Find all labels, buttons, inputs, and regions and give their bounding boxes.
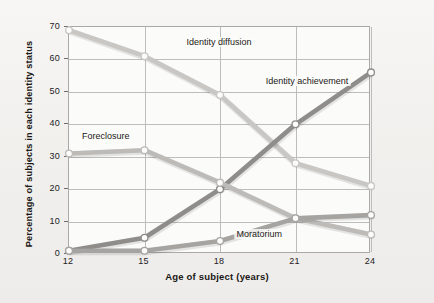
data-point-marker <box>292 160 299 167</box>
series-line-shadow <box>70 31 372 187</box>
x-tick-label: 15 <box>124 256 164 266</box>
data-point-marker <box>141 147 148 154</box>
x-tick-label: 18 <box>199 256 239 266</box>
data-point-marker <box>368 183 375 190</box>
data-point-marker <box>141 53 148 60</box>
series-label-identity-diffusion: Identity diffusion <box>185 37 254 47</box>
x-tick-label: 12 <box>48 256 88 266</box>
data-point-marker <box>217 179 224 186</box>
y-tick-label: 30 <box>0 151 60 161</box>
data-point-marker <box>141 234 148 241</box>
data-point-marker <box>368 212 375 219</box>
data-point-marker <box>217 92 224 99</box>
data-point-marker <box>368 69 375 76</box>
x-tick-label: 21 <box>275 256 315 266</box>
chart-figure: Percentage of subjects in each identity … <box>0 0 434 303</box>
y-tick-label: 60 <box>0 53 60 63</box>
data-point-marker <box>141 247 148 254</box>
x-axis-title: Age of subject (years) <box>0 271 434 282</box>
y-tick-label: 20 <box>0 183 60 193</box>
series-label-foreclosure: Foreclosure <box>80 131 132 141</box>
series-label-identity-achievement: Identity achievement <box>264 76 351 86</box>
x-tick-label: 24 <box>350 256 390 266</box>
y-tick-label: 70 <box>0 21 60 31</box>
y-tick-label: 40 <box>0 118 60 128</box>
data-point-marker <box>292 121 299 128</box>
data-point-marker <box>292 215 299 222</box>
data-point-marker <box>217 238 224 245</box>
data-point-marker <box>368 231 375 238</box>
data-point-marker <box>66 27 73 34</box>
series-label-moratorium: Moratorium <box>235 229 285 239</box>
y-tick-label: 50 <box>0 86 60 96</box>
data-point-marker <box>66 150 73 157</box>
y-tick-label: 10 <box>0 216 60 226</box>
data-point-marker <box>66 247 73 254</box>
